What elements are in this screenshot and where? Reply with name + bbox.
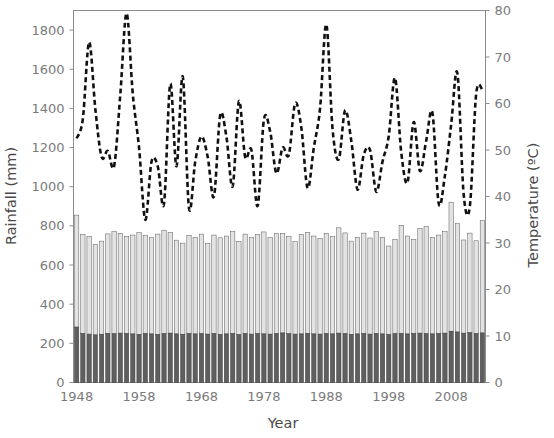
bar-segment-upper [255, 234, 259, 333]
bar-segment-lower [255, 334, 259, 383]
bar-segment-lower [224, 334, 228, 383]
bar-segment-lower [449, 331, 453, 382]
bar-segment-upper [99, 241, 103, 334]
bar-segment-upper [305, 233, 309, 334]
bar-segment-lower [387, 335, 391, 383]
bar-segment-lower [374, 334, 378, 383]
bar-segment-upper [262, 232, 266, 334]
bar-segment-lower [474, 334, 478, 383]
bar-segment-lower [312, 334, 316, 383]
bar-segment-lower [193, 334, 197, 383]
bar-segment-lower [168, 333, 172, 382]
bar-segment-upper [162, 230, 166, 333]
bar-segment-lower [299, 334, 303, 383]
bars-layer [74, 202, 484, 382]
bar-segment-upper [312, 236, 316, 334]
bar-segment-lower [280, 333, 284, 383]
bar-segment-lower [174, 334, 178, 383]
bar-segment-upper [387, 246, 391, 335]
bar-segment-upper [243, 234, 247, 333]
bar-segment-upper [293, 242, 297, 335]
bar-segment-lower [405, 334, 409, 383]
bar-segment-lower [243, 334, 247, 383]
bar-segment-lower [461, 333, 465, 382]
y-tick-label: 600 [40, 258, 65, 273]
bar-segment-lower [443, 333, 447, 382]
bar-segment-lower [93, 335, 97, 383]
bar-segment-lower [430, 334, 434, 383]
bar-segment-lower [106, 334, 110, 383]
y-tick-label: 1400 [31, 101, 64, 116]
temperature-axis: 01020304050607080 [486, 3, 512, 390]
bar-segment-upper [374, 232, 378, 334]
bar-segment-upper [393, 239, 397, 333]
y2-tick-label: 80 [495, 3, 512, 18]
year-axis: 1948195819681978198819982008 [60, 389, 468, 404]
bar-segment-upper [268, 237, 272, 334]
chart-canvas: 020040060080010001200140016001800 010203… [0, 0, 554, 438]
bar-segment-lower [143, 334, 147, 383]
bar-segment-lower [99, 334, 103, 382]
bar-segment-upper [124, 236, 128, 333]
bar-segment-lower [324, 334, 328, 383]
bar-segment-upper [287, 236, 291, 333]
bar-segment-lower [118, 333, 122, 382]
bar-segment-lower [149, 334, 153, 383]
y-tick-label: 1200 [31, 140, 64, 155]
bar-segment-lower [424, 334, 428, 383]
bar-segment-upper [299, 234, 303, 334]
bar-segment-lower [287, 334, 291, 383]
bar-segment-lower [305, 334, 309, 383]
bar-segment-upper [74, 215, 78, 327]
bar-segment-lower [87, 334, 91, 382]
bar-segment-lower [156, 334, 160, 382]
y-tick-label: 1600 [31, 62, 64, 77]
bar-segment-upper [368, 238, 372, 334]
bar-segment-lower [468, 333, 472, 383]
bar-segment-upper [249, 237, 253, 334]
bar-segment-upper [468, 233, 472, 333]
bar-segment-lower [355, 334, 359, 383]
bar-segment-upper [156, 234, 160, 334]
bar-segment-lower [137, 334, 141, 382]
bar-segment-upper [362, 233, 366, 333]
bar-segment-upper [143, 236, 147, 334]
bar-segment-upper [218, 238, 222, 335]
bar-segment-upper [231, 232, 235, 334]
bar-segment-upper [187, 235, 191, 333]
bar-segment-lower [218, 334, 222, 382]
bar-segment-upper [424, 226, 428, 333]
bar-segment-lower [237, 335, 241, 383]
bar-segment-lower [181, 334, 185, 382]
bar-segment-upper [93, 244, 97, 335]
rainfall-temperature-figure: 020040060080010001200140016001800 010203… [0, 0, 554, 438]
y-tick-label: 800 [40, 218, 65, 233]
bar-segment-upper [399, 225, 403, 333]
bar-segment-upper [87, 236, 91, 334]
y2-tick-label: 20 [495, 282, 512, 297]
bar-segment-lower [206, 334, 210, 382]
bar-segment-lower [249, 334, 253, 382]
bar-segment-lower [162, 334, 166, 383]
bar-segment-upper [280, 233, 284, 333]
bar-segment-upper [430, 237, 434, 334]
bar-segment-lower [268, 334, 272, 382]
bar-segment-lower [337, 333, 341, 382]
bar-segment-upper [349, 241, 353, 334]
bar-segment-lower [124, 334, 128, 383]
bar-segment-upper [318, 238, 322, 334]
bar-segment-upper [343, 233, 347, 334]
bar-segment-lower [393, 334, 397, 383]
bar-segment-lower [368, 334, 372, 382]
x-tick-label: 1958 [122, 389, 155, 404]
bar-segment-upper [137, 233, 141, 335]
x-tick-label: 1968 [185, 389, 218, 404]
bar-segment-lower [318, 334, 322, 382]
bar-segment-lower [349, 334, 353, 382]
bar-segment-upper [174, 240, 178, 334]
bar-segment-lower [480, 333, 484, 383]
bar-segment-lower [274, 334, 278, 383]
bar-segment-lower [74, 327, 78, 382]
bar-segment-upper [443, 232, 447, 334]
bar-segment-lower [231, 334, 235, 383]
